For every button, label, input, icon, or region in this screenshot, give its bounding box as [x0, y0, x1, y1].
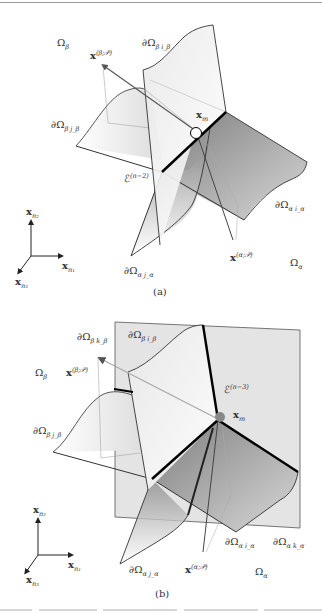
label-boundary-alpha-right-a: ∂Ωα i_α: [275, 200, 305, 213]
axes-b: [26, 520, 71, 572]
label-x-alpha-a: x(α;𝒫): [230, 252, 253, 263]
axes-a: [19, 222, 61, 272]
label-boundary-beta-left-a: ∂Ωβ j_β: [51, 120, 79, 133]
label-boundary-beta-top-b: ∂Ωβ i_β: [128, 330, 156, 343]
label-x-alpha-b: x(α;𝒫): [185, 564, 208, 575]
label-boundary-beta-top-a: ∂Ωβ i_β: [142, 38, 170, 51]
label-xm-b: xm: [233, 410, 245, 423]
label-omega-beta-a: Ωβ: [57, 38, 69, 51]
label-boundary-alpha-bottom-a: ∂Ωα j_α: [124, 266, 154, 279]
label-x-beta-b: x(β;𝒫): [66, 367, 88, 378]
cut-off-caption-text: [0, 606, 322, 613]
label-edge-b: ℰ(n−3): [224, 384, 249, 395]
panel-b-diagram: [53, 322, 300, 564]
label-boundary-alpha-j-b: ∂Ωα j_α: [129, 565, 159, 578]
axis-label-x1-a: xn₁: [62, 261, 75, 274]
caption-b: (b): [155, 588, 169, 599]
label-x-beta-a: x(β;𝒫): [90, 50, 112, 61]
label-xm-a: xm: [196, 110, 208, 123]
axis-label-x2-b: xn₂: [33, 505, 46, 518]
axis-label-x2-a: xn₂: [26, 207, 39, 220]
label-omega-alpha-a: Ωα: [290, 258, 303, 271]
label-boundary-beta-k-b: ∂Ωβ k_β: [77, 332, 107, 345]
caption-a: (a): [153, 286, 167, 297]
axis-label-x3-a: xn₃: [15, 277, 28, 290]
axis-label-x1-b: xn₁: [68, 560, 81, 573]
label-boundary-alpha-i-b: ∂Ωα i_α: [225, 537, 255, 550]
diagram-canvas: [0, 0, 322, 613]
label-boundary-alpha-k-b: ∂Ωα k_α: [273, 537, 305, 550]
label-omega-beta-b: Ωβ: [35, 368, 47, 381]
label-omega-alpha-b: Ωα: [255, 567, 268, 580]
label-boundary-beta-left-b: ∂Ωβ j_β: [33, 426, 61, 439]
axis-label-x3-b: xn₃: [26, 575, 39, 588]
label-edge-a: ℰ(n−2): [124, 173, 149, 184]
